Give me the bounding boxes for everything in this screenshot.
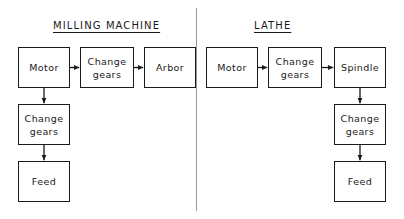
machine-drive-train-diagram: MILLING MACHINE Motor Change gears Arbor… bbox=[0, 0, 404, 219]
connector-arrow-layer bbox=[0, 0, 404, 219]
